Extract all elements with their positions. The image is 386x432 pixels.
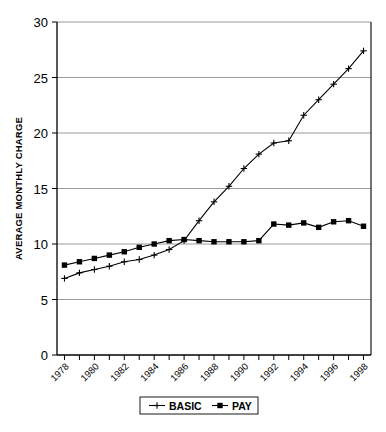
ytick-label-10: 10 bbox=[34, 237, 48, 252]
marker-square bbox=[271, 221, 276, 226]
ytick-label-0: 0 bbox=[41, 348, 48, 363]
ytick-label-20: 20 bbox=[34, 126, 48, 141]
xtick-label-1988: 1988 bbox=[198, 361, 221, 384]
xtick-label-1994: 1994 bbox=[287, 361, 310, 384]
marker-square bbox=[361, 224, 366, 229]
ytick-label-5: 5 bbox=[41, 293, 48, 308]
xtick-label-1982: 1982 bbox=[108, 361, 131, 384]
marker-square bbox=[107, 252, 112, 257]
xtick-label-1984: 1984 bbox=[138, 361, 161, 384]
marker-square bbox=[226, 239, 231, 244]
marker-square bbox=[196, 238, 201, 243]
ytick-label-30: 30 bbox=[34, 15, 48, 30]
series-pay bbox=[62, 218, 366, 268]
marker-square bbox=[286, 222, 291, 227]
xtick-label-1998: 1998 bbox=[347, 361, 370, 384]
marker-square bbox=[346, 218, 351, 223]
chart-container: 0510152025301978198019821984198619881990… bbox=[0, 0, 386, 432]
marker-square bbox=[166, 238, 171, 243]
legend-label-basic: BASIC bbox=[169, 400, 202, 412]
marker-square bbox=[151, 241, 156, 246]
marker-square bbox=[92, 256, 97, 261]
marker-square bbox=[181, 237, 186, 242]
marker-square bbox=[77, 259, 82, 264]
y-axis-title: AVERAGE MONTHLY CHARGE bbox=[13, 117, 24, 260]
ytick-label-15: 15 bbox=[34, 182, 48, 197]
marker-square bbox=[62, 262, 67, 267]
marker-square bbox=[122, 249, 127, 254]
marker-square bbox=[301, 220, 306, 225]
line-chart: 0510152025301978198019821984198619881990… bbox=[0, 0, 386, 432]
series-basic bbox=[61, 48, 366, 282]
marker-square bbox=[256, 238, 261, 243]
chart-legend: BASICPAY bbox=[140, 397, 258, 414]
xtick-label-1978: 1978 bbox=[48, 361, 71, 384]
xtick-label-1992: 1992 bbox=[257, 361, 280, 384]
xtick-label-1990: 1990 bbox=[228, 361, 251, 384]
marker-square bbox=[211, 239, 216, 244]
ytick-label-25: 25 bbox=[34, 71, 48, 86]
marker-square bbox=[217, 403, 222, 408]
marker-square bbox=[331, 219, 336, 224]
xtick-label-1996: 1996 bbox=[317, 361, 340, 384]
marker-square bbox=[137, 245, 142, 250]
marker-square bbox=[241, 239, 246, 244]
xtick-label-1986: 1986 bbox=[168, 361, 191, 384]
legend-label-pay: PAY bbox=[232, 400, 252, 412]
marker-square bbox=[316, 225, 321, 230]
xtick-label-1980: 1980 bbox=[78, 361, 101, 384]
